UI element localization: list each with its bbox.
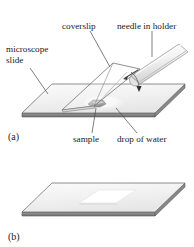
figure-canvas: coverslip needle in holder microscope sl… — [0, 0, 194, 247]
needle-holder-body — [131, 44, 188, 84]
panel-label-a: (a) — [8, 131, 19, 143]
panel-b-group: (b) — [8, 183, 185, 243]
panel-a-group: coverslip needle in holder microscope sl… — [6, 21, 188, 144]
label-coverslip: coverslip — [62, 21, 96, 31]
slide-a-edge — [22, 113, 155, 117]
microscope-slide-preparation-figure: coverslip needle in holder microscope sl… — [0, 0, 194, 247]
leader-coverslip — [90, 31, 110, 67]
label-microscope-slide-line2: slide — [6, 55, 23, 65]
slide-b-edge — [22, 212, 155, 216]
label-needle-in-holder: needle in holder — [117, 21, 176, 31]
label-sample: sample — [73, 134, 99, 144]
leader-microscope-slide — [30, 68, 48, 94]
coverslip-flat-shadow — [79, 203, 118, 205]
panel-label-b: (b) — [8, 231, 20, 243]
needle-holder — [129, 44, 188, 86]
label-microscope-slide-line1: microscope — [6, 44, 48, 54]
label-drop-of-water: drop of water — [117, 134, 167, 144]
